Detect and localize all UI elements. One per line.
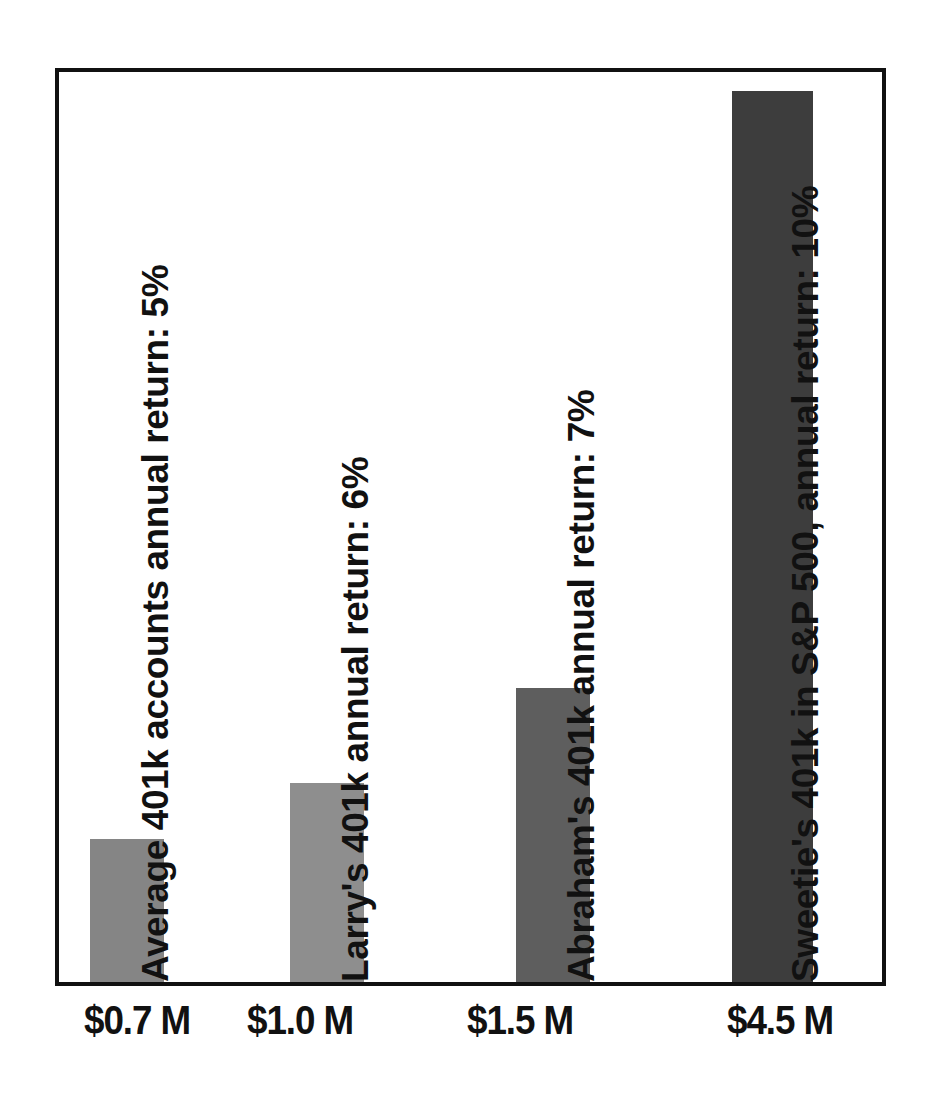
plot-area-inner: Average 401k accounts annual return: 5% …: [59, 72, 882, 982]
bar-label-sweetie-sp500: Sweetie's 401k in S&P 500, annual return…: [787, 186, 824, 982]
x-axis-tick-label-group: $0.7 M $1.0 M $1.5 M $4.5 M: [55, 1000, 886, 1060]
bar-label-average-401k: Average 401k accounts annual return: 5%: [137, 265, 174, 982]
x-tick-label-larry-401k: $1.0 M: [199, 1000, 401, 1040]
x-tick-label-abraham-401k: $1.5 M: [419, 1000, 621, 1040]
bar-chart-figure: Average 401k accounts annual return: 5% …: [0, 0, 940, 1110]
x-tick-label-sweetie-sp500: $4.5 M: [679, 1000, 881, 1040]
bar-label-larry-401k: Larry's 401k annual return: 6%: [337, 457, 374, 982]
plot-area-frame: Average 401k accounts annual return: 5% …: [55, 68, 886, 986]
bar-label-abraham-401k: Abraham's 401k annual return: 7%: [563, 390, 600, 982]
